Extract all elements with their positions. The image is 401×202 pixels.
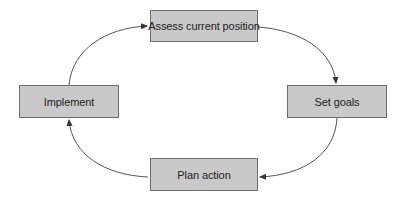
node-plan-action: Plan action xyxy=(150,158,258,191)
arrow-goals-to-plan xyxy=(260,118,337,177)
node-label: Assess current position xyxy=(148,20,259,32)
arrow-plan-to-implement xyxy=(69,120,148,177)
node-implement: Implement xyxy=(19,85,119,118)
arrow-assess-to-goals xyxy=(258,27,336,83)
node-label: Plan action xyxy=(177,169,230,181)
node-assess-current-position: Assess current position xyxy=(150,10,258,42)
node-label: Set goals xyxy=(315,96,360,108)
node-label: Implement xyxy=(44,96,94,108)
cycle-diagram: Assess current position Set goals Plan a… xyxy=(0,0,401,202)
arrow-implement-to-assess xyxy=(69,26,147,85)
node-set-goals: Set goals xyxy=(287,85,387,118)
